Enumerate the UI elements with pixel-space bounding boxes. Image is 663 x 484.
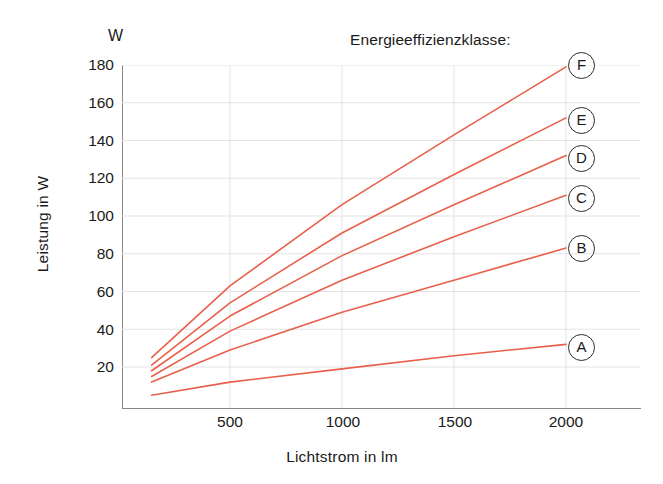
y-axis-tick-labels: 180 160 140 120 100 80 60 40 20 (52, 0, 114, 484)
x-axis-title: Lichtstrom in lm (122, 448, 562, 466)
class-badge-f: F (568, 52, 595, 79)
class-badge-d: D (568, 145, 595, 172)
curve-d (152, 156, 566, 371)
curve-a (152, 344, 566, 395)
x-tick-2000: 2000 (526, 413, 606, 431)
y-tick-80: 80 (54, 245, 114, 263)
y-tick-20: 20 (54, 358, 114, 376)
x-tick-1500: 1500 (415, 413, 495, 431)
curve-c (152, 195, 566, 376)
y-tick-100: 100 (54, 207, 114, 225)
y-tick-140: 140 (54, 132, 114, 150)
class-badge-a: A (568, 334, 595, 361)
class-badge-c: C (568, 185, 595, 212)
class-badge-e: E (568, 107, 595, 134)
class-badge-b: B (568, 235, 595, 262)
y-tick-40: 40 (54, 321, 114, 339)
y-tick-160: 160 (54, 94, 114, 112)
plot-canvas (122, 65, 640, 408)
data-curves (152, 67, 566, 395)
y-tick-60: 60 (54, 283, 114, 301)
x-tick-1000: 1000 (303, 413, 383, 431)
vertical-gridlines (230, 65, 566, 408)
y-tick-120: 120 (54, 169, 114, 187)
chart-figure: Leistung in W W Energieeffizienzklasse: … (0, 0, 663, 484)
curve-f (152, 67, 566, 358)
x-axis-spine (122, 408, 641, 409)
chart-title: Energieeffizienzklasse: (350, 31, 511, 49)
plot-area (122, 65, 640, 408)
horizontal-gridlines (122, 65, 640, 367)
y-tick-180: 180 (54, 56, 114, 74)
x-tick-500: 500 (190, 413, 270, 431)
y-axis-title: Leistung in W (34, 134, 52, 314)
